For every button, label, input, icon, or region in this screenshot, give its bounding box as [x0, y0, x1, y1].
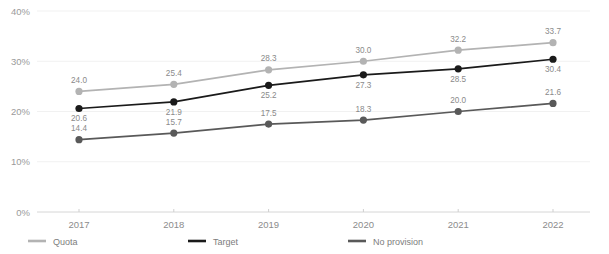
y-axis-tick-label: 10% — [11, 156, 31, 167]
x-axis-tick-label: 2022 — [542, 219, 563, 230]
series-line-no-provision — [79, 103, 553, 139]
data-point-label: 21.9 — [166, 108, 182, 117]
data-point-label: 20.6 — [71, 114, 87, 123]
x-axis-tick-label: 2018 — [163, 219, 184, 230]
data-point-marker[interactable] — [455, 65, 462, 72]
data-point-marker[interactable] — [455, 47, 462, 54]
data-point-marker[interactable] — [75, 136, 82, 143]
data-point-marker[interactable] — [455, 108, 462, 115]
chart-canvas: 0%10%20%30%40%20172018201920202021202224… — [0, 0, 609, 254]
data-point-label: 15.7 — [166, 118, 182, 127]
data-point-label: 18.3 — [355, 105, 371, 114]
data-point-label: 25.2 — [261, 91, 277, 100]
data-point-label: 20.0 — [450, 96, 466, 105]
data-point-marker[interactable] — [75, 105, 82, 112]
line-chart: 0%10%20%30%40%20172018201920202021202224… — [0, 0, 609, 254]
data-point-marker[interactable] — [360, 58, 367, 65]
data-point-marker[interactable] — [265, 66, 272, 73]
data-point-label: 32.2 — [450, 35, 466, 44]
y-axis-tick-label: 20% — [11, 106, 31, 117]
data-point-label: 14.4 — [71, 124, 87, 133]
data-point-marker[interactable] — [265, 82, 272, 89]
data-point-label: 27.3 — [355, 81, 371, 90]
data-point-label: 21.6 — [545, 88, 561, 97]
data-point-label: 25.4 — [166, 69, 182, 78]
legend-label-no-provision[interactable]: No provision — [373, 237, 423, 247]
data-point-label: 24.0 — [71, 76, 87, 85]
y-axis-tick-label: 30% — [11, 56, 31, 67]
data-point-marker[interactable] — [360, 71, 367, 78]
data-point-marker[interactable] — [549, 39, 556, 46]
x-axis-tick-label: 2019 — [258, 219, 279, 230]
data-point-marker[interactable] — [170, 81, 177, 88]
x-axis-tick-label: 2020 — [353, 219, 374, 230]
data-point-label: 33.7 — [545, 27, 561, 36]
data-point-marker[interactable] — [75, 88, 82, 95]
series-line-target — [79, 59, 553, 108]
legend-label-target[interactable]: Target — [213, 237, 239, 247]
data-point-marker[interactable] — [170, 130, 177, 137]
data-point-marker[interactable] — [549, 56, 556, 63]
data-point-marker[interactable] — [360, 116, 367, 123]
y-axis-tick-label: 0% — [16, 207, 30, 218]
y-axis-tick-label: 40% — [11, 6, 31, 17]
data-point-label: 17.5 — [261, 109, 277, 118]
data-point-label: 28.5 — [450, 75, 466, 84]
data-point-label: 28.3 — [261, 54, 277, 63]
legend-label-quota[interactable]: Quota — [53, 237, 78, 247]
data-point-marker[interactable] — [170, 98, 177, 105]
data-point-marker[interactable] — [549, 100, 556, 107]
data-point-label: 30.4 — [545, 65, 561, 74]
x-axis-tick-label: 2017 — [68, 219, 89, 230]
x-axis-tick-label: 2021 — [448, 219, 469, 230]
data-point-label: 30.0 — [355, 46, 371, 55]
data-point-marker[interactable] — [265, 120, 272, 127]
